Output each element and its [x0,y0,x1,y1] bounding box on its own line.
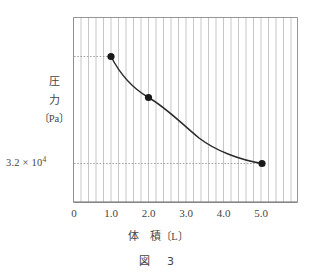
data-point-markers [107,53,265,167]
figure-container: 0 1.0 2.0 3.0 4.0 5.0 3.2 × 104 圧 力 〔Pa〕… [0,0,316,278]
x-axis-title-unit: 〔L〕 [161,231,187,242]
x-axis-title-text: 体 積 [128,230,161,243]
x-tick-label-1: 1.0 [104,208,118,219]
x-tick-label-4: 4.0 [217,208,231,219]
x-axis-title: 体 積〔L〕 [0,231,316,243]
y-tick-label-exponent: 4 [42,155,46,164]
x-tick-label-3: 3.0 [179,208,193,219]
x-tick-label-0: 0 [71,208,77,219]
y-axis-title-line-2: 力 [38,95,70,106]
y-tick-label-value: 3.2 × 104 [6,158,46,169]
x-tick-label-2: 2.0 [142,208,156,219]
data-point-3 [258,160,265,167]
x-tick-label-5: 5.0 [254,208,268,219]
vertical-gridlines [74,18,292,203]
data-point-1 [107,53,114,60]
y-axis-title: 圧 力 〔Pa〕 [38,76,70,125]
data-point-2 [145,94,152,101]
y-axis-title-line-1: 圧 [38,76,70,87]
figure-caption: 図 3 [0,256,316,267]
plot-frame [74,18,298,203]
y-axis-title-line-3: 〔Pa〕 [38,114,70,125]
y-tick-label-mantissa: 3.2 × 10 [6,157,42,168]
